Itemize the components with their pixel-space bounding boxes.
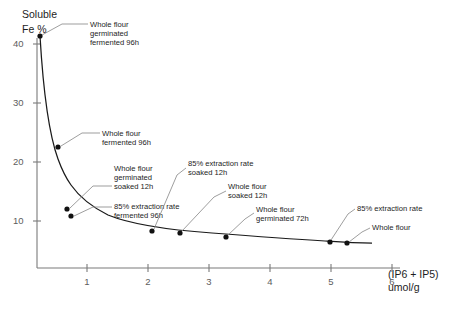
- y-axis-tick-labels: 40 30 20 10: [13, 38, 24, 226]
- data-point: [68, 213, 73, 218]
- leader-line: [331, 209, 355, 240]
- data-point: [177, 230, 182, 235]
- chart-figure: Soluble Fe % (IP6 + IP5) umol/g 40 30 20…: [0, 0, 452, 314]
- annotation-label-line2: germinated: [90, 29, 128, 38]
- annotation-label-line2: germinated 72h: [256, 214, 309, 223]
- annotation-label-line1: 85% extraction rate: [188, 159, 253, 168]
- leader-line: [349, 228, 370, 242]
- annotation-label-line1: Whole flour: [256, 205, 295, 214]
- x-tick-label-6: 6: [389, 276, 394, 287]
- leader-line: [42, 24, 88, 35]
- ann-whole-flour-germinated-72h: Whole flour germinated 72h: [228, 205, 309, 235]
- ann-whole-flour-germinated-fermented-96h: Whole flour germinated fermented 96h: [42, 20, 139, 47]
- leader-line: [61, 133, 100, 146]
- soluble-fe-vs-ip6-ip5-line-chart: Soluble Fe % (IP6 + IP5) umol/g 40 30 20…: [0, 0, 452, 314]
- annotation-label-line1: 85% extraction rate: [114, 202, 179, 211]
- x-axis-title-line1: (IP6 + IP5): [388, 268, 438, 280]
- leader-line: [182, 191, 226, 231]
- annotation-label-line1: Whole flour: [114, 164, 153, 173]
- data-point: [55, 144, 60, 149]
- ann-whole-flour-fermented-96h: Whole flour fermented 96h: [61, 129, 151, 147]
- y-tick-label-30: 30: [13, 97, 24, 108]
- annotation-label-line2: soaked 12h: [228, 191, 267, 200]
- data-point: [64, 206, 69, 211]
- ann-whole-flour: Whole flour: [349, 223, 411, 242]
- data-point: [223, 234, 228, 239]
- x-tick-label-4: 4: [267, 276, 272, 287]
- x-tick-label-2: 2: [145, 276, 150, 287]
- annotation-label-line2: fermented 96h: [102, 138, 151, 147]
- y-axis-title-line1: Soluble: [22, 8, 57, 20]
- x-axis-tick-labels: 1 2 3 4 5 6: [84, 276, 394, 287]
- data-point: [37, 33, 42, 38]
- leader-line: [228, 213, 254, 235]
- annotation-label-line1: Whole flour: [102, 129, 141, 138]
- annotation-label-line2: germinated: [114, 173, 152, 182]
- x-tick-label-5: 5: [328, 276, 333, 287]
- annotation-label-line3: soaked 12h: [114, 182, 153, 191]
- y-tick-label-40: 40: [13, 38, 24, 49]
- y-tick-label-10: 10: [13, 215, 24, 226]
- y-axis-title-line2: Fe %: [22, 23, 47, 35]
- annotation-label-line3: fermented 96h: [90, 38, 139, 47]
- annotation-label-line1: Whole flour: [228, 182, 267, 191]
- data-curve: [40, 36, 372, 243]
- ann-85-extraction-rate: 85% extraction rate: [331, 204, 422, 240]
- annotation-label-line1: Whole flour: [372, 223, 411, 232]
- data-point: [149, 228, 154, 233]
- data-point: [327, 239, 332, 244]
- annotation-label-line2: soaked 12h: [188, 168, 227, 177]
- annotation-label-line2: fermented 96h: [114, 211, 163, 220]
- ann-whole-flour-soaked-12h: Whole flour soaked 12h: [182, 182, 267, 231]
- x-tick-label-3: 3: [206, 276, 211, 287]
- y-tick-label-20: 20: [13, 156, 24, 167]
- annotation-label-line1: 85% extraction rate: [357, 204, 422, 213]
- data-point: [344, 240, 349, 245]
- x-tick-label-1: 1: [84, 276, 89, 287]
- annotation-label-line1: Whole flour: [90, 20, 129, 29]
